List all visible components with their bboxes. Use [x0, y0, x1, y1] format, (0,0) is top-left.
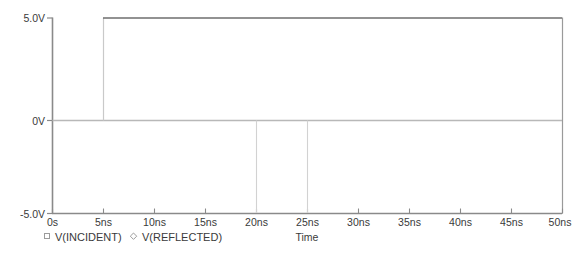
x-tick-label-50ns: 50ns [549, 216, 572, 228]
waveform-plot-canvas[interactable]: 5.0V 0V -5.0V 0s 5ns 10ns 15ns 20ns 25ns… [0, 0, 575, 254]
legend-item-reflected[interactable]: V(REFLECTED) [130, 231, 222, 243]
x-axis-title: Time [296, 231, 319, 243]
x-tick-label-20ns: 20ns [245, 216, 268, 228]
y-tick-label-neg5v: -5.0V [20, 208, 45, 220]
y-tick-label-0v: 0V [32, 115, 45, 127]
transient-plot-window: 5.0V 0V -5.0V 0s 5ns 10ns 15ns 20ns 25ns… [0, 0, 575, 254]
x-tick-label-0s: 0s [47, 216, 58, 228]
legend-label-incident: V(INCIDENT) [55, 231, 122, 243]
plot-background [0, 0, 575, 254]
x-tick-label-15ns: 15ns [194, 216, 217, 228]
x-tick-label-5ns: 5ns [95, 216, 112, 228]
x-tick-label-10ns: 10ns [143, 216, 166, 228]
x-tick-label-25ns: 25ns [296, 216, 319, 228]
x-tick-label-30ns: 30ns [347, 216, 370, 228]
x-tick-label-40ns: 40ns [449, 216, 472, 228]
x-tick-label-45ns: 45ns [500, 216, 523, 228]
y-tick-label-5v: 5.0V [23, 12, 45, 24]
legend-item-incident[interactable]: V(INCIDENT) [45, 231, 122, 243]
legend-label-reflected: V(REFLECTED) [142, 231, 222, 243]
x-tick-label-35ns: 35ns [398, 216, 421, 228]
